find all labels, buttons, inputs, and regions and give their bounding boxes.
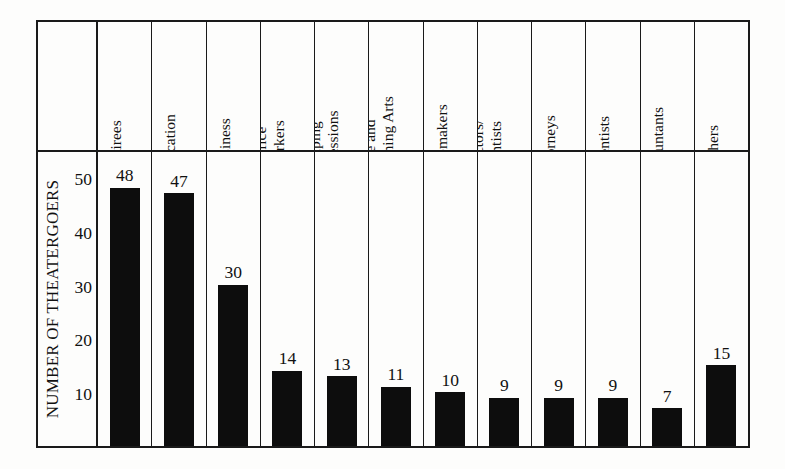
bar-value-label: 9 [554,377,563,395]
bar-column: 10 [424,152,478,446]
bar-column: 13 [315,152,369,446]
bar-value-label: 9 [609,377,618,395]
bar-value-label: 15 [713,345,731,363]
category-label: OfficeWorkers [261,120,288,150]
bar-column: 30 [207,152,261,446]
bar-column: 14 [261,152,315,446]
header-axis-spacer [38,22,98,150]
bar [706,365,736,446]
category-header-cell: Attorneys [532,22,586,150]
bar-column: 15 [695,152,748,446]
y-axis-tick-label: 40 [62,222,92,243]
y-axis-title-text: NUMBER OF THEATERGOERS [43,180,63,418]
y-axis-tick-labels: 1020304050 [62,152,92,446]
category-label: HelpingProfessions [315,110,342,150]
bar [218,285,248,446]
bar [544,398,574,446]
bar [164,193,194,446]
bar [598,398,628,446]
category-header-cell: Accountants [641,22,695,150]
category-label-row: RetireesEducationBusinessOfficeWorkersHe… [98,22,748,150]
category-label: Fine andPerforming Arts [369,96,396,150]
category-label: Scientists [595,116,613,150]
bar-column: 47 [152,152,206,446]
bar-value-label: 9 [500,377,509,395]
y-axis-tick-label: 50 [62,168,92,189]
bar-column: 9 [478,152,532,446]
bar-column: 9 [586,152,640,446]
category-label: Education [161,115,179,150]
y-axis-cell: NUMBER OF THEATERGOERS 1020304050 [38,152,98,446]
bar [272,371,302,446]
category-header-cell: Business [207,22,261,150]
bar-value-label: 11 [387,366,404,384]
y-axis-tick-label: 10 [62,384,92,405]
plot-band: NUMBER OF THEATERGOERS 1020304050 484730… [38,152,748,446]
bar-chart-figure: RetireesEducationBusinessOfficeWorkersHe… [0,0,785,469]
bar [381,387,411,446]
bar-column: 48 [98,152,152,446]
bar-column: 7 [641,152,695,446]
category-header-cell: Scientists [586,22,640,150]
category-label: Accountants [649,107,667,150]
bar-value-label: 47 [170,173,188,191]
bar-column: 9 [532,152,586,446]
category-header-cell: Education [152,22,206,150]
category-header-cell: Fine andPerforming Arts [369,22,423,150]
category-label: Homemakers [432,105,450,150]
bar-column: 11 [369,152,423,446]
bar [435,392,465,446]
bar [489,398,519,446]
bar [110,188,140,446]
category-label: Business [215,118,233,150]
category-label: Doctors/Dentists [478,119,505,150]
category-header-band: RetireesEducationBusinessOfficeWorkersHe… [38,22,748,152]
category-header-cell: OfficeWorkers [261,22,315,150]
plot-area: 48473014131110999715 [98,152,748,446]
bar-value-label: 14 [279,350,297,368]
category-label: Others [704,125,722,150]
chart-frame: RetireesEducationBusinessOfficeWorkersHe… [36,20,750,448]
category-label: Retirees [107,121,125,150]
category-header-cell: HelpingProfessions [315,22,369,150]
bar [327,376,357,446]
bar [652,408,682,446]
category-header-cell: Others [695,22,748,150]
bar-value-label: 7 [663,388,672,406]
category-header-cell: Homemakers [424,22,478,150]
bar-value-label: 13 [333,356,351,374]
category-header-cell: Retirees [98,22,152,150]
category-label: Attorneys [541,115,559,150]
bar-value-label: 30 [224,264,242,282]
bar-value-label: 10 [441,372,459,390]
bar-value-label: 48 [116,167,134,185]
y-axis-tick-label: 30 [62,276,92,297]
y-axis-tick-label: 20 [62,330,92,351]
category-header-cell: Doctors/Dentists [478,22,532,150]
